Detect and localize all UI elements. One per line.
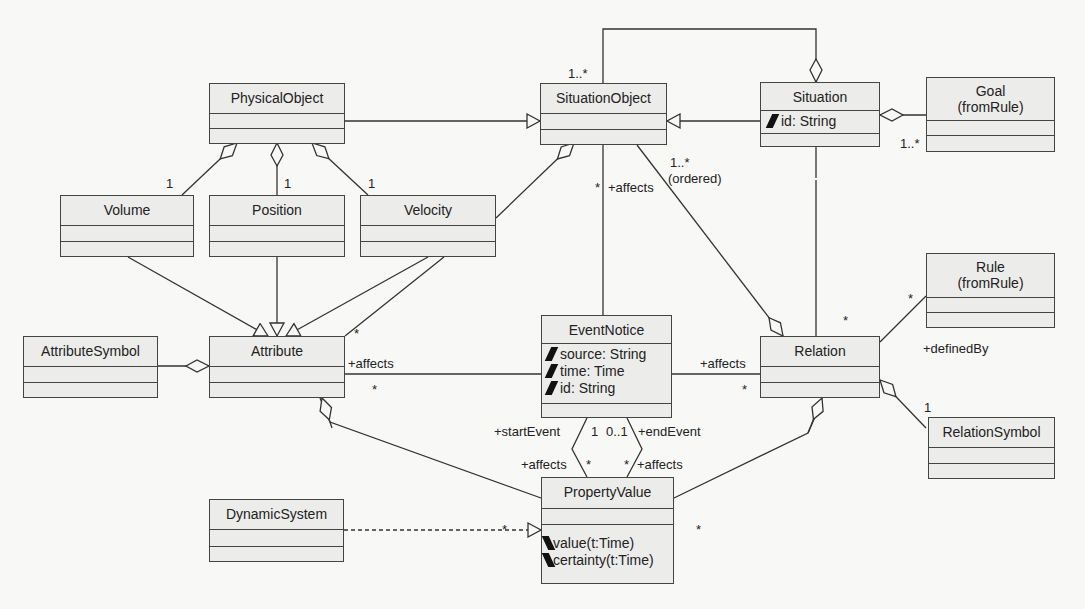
operations-compartment: [761, 134, 879, 149]
role-label: +affects: [700, 357, 746, 371]
operations-compartment: [361, 242, 495, 257]
attributes-compartment: [210, 226, 344, 242]
class-position[interactable]: Position: [209, 195, 345, 257]
edge-propertyvalue-attribute: [320, 398, 541, 498]
class-dynamicsystem[interactable]: DynamicSystem: [209, 499, 344, 562]
operations-compartment: [927, 136, 1054, 152]
multiplicity-label: 1: [368, 177, 375, 191]
multiplicity-label: *: [586, 458, 591, 472]
role-label: +affects: [521, 458, 567, 472]
class-stereotype: (fromRule): [929, 275, 1052, 291]
multiplicity-label: *: [372, 383, 377, 397]
class-physicalobject[interactable]: PhysicalObject: [209, 83, 345, 144]
multiplicity-label: 1: [591, 425, 598, 439]
class-attributesymbol[interactable]: AttributeSymbol: [23, 336, 158, 398]
multiplicity-label: *: [696, 523, 701, 537]
operations-compartment: [24, 383, 157, 398]
class-name: RelationSymbol: [929, 418, 1054, 448]
class-name: Goal (fromRule): [927, 78, 1054, 121]
multiplicity-label: 0..1: [606, 425, 628, 439]
class-name: EventNotice: [542, 316, 671, 344]
class-relationsymbol[interactable]: RelationSymbol: [928, 417, 1055, 479]
multiplicity-label: 1..*: [900, 137, 920, 151]
multiplicity-label: *: [624, 458, 629, 472]
operations-compartment: [210, 242, 344, 257]
multiplicity-label: *: [502, 523, 507, 537]
uml-diagram: PhysicalObject SituationObject Situation…: [0, 0, 1085, 609]
class-name: Situation: [761, 83, 879, 111]
class-name: Rule (fromRule): [927, 254, 1054, 298]
attribute-item: time: Time: [542, 363, 671, 380]
attribute-item: id: String: [763, 113, 877, 130]
operations-compartment: [927, 313, 1054, 328]
attributes-compartment: [210, 114, 344, 129]
class-attribute[interactable]: Attribute: [209, 336, 345, 398]
attributes-compartment: [541, 114, 666, 130]
attributes-compartment: [24, 367, 157, 383]
class-goal[interactable]: Goal (fromRule): [926, 77, 1055, 152]
multiplicity-label: 1: [166, 177, 173, 191]
attributes-compartment: source: String time: Time id: String: [542, 344, 671, 404]
class-stereotype: (fromRule): [929, 99, 1052, 115]
role-label: +affects: [348, 357, 394, 371]
operation-item: certainty(t:Time): [542, 552, 673, 569]
edge-propertyvalue-attribute-diamond: [322, 398, 332, 428]
operations-compartment: [929, 464, 1054, 479]
multiplicity-label: *: [742, 383, 747, 397]
operations-compartment: value(t:Time) certainty(t:Time): [542, 525, 673, 583]
operations-compartment: [61, 242, 193, 257]
class-name: AttributeSymbol: [24, 337, 157, 367]
class-eventnotice[interactable]: EventNotice source: String time: Time id…: [541, 315, 672, 418]
class-name: Position: [210, 196, 344, 226]
multiplicity-label: *: [595, 181, 600, 195]
multiplicity-label: *: [908, 292, 913, 306]
class-name: Volume: [61, 196, 193, 226]
operations-compartment: [541, 130, 666, 145]
attributes-compartment: [542, 509, 673, 525]
attribute-item: id: String: [542, 380, 671, 397]
attributes-compartment: [761, 367, 879, 383]
multiplicity-label: 1: [284, 177, 291, 191]
class-situationobject[interactable]: SituationObject: [540, 83, 667, 145]
attributes-compartment: [210, 530, 343, 547]
attributes-compartment: [927, 121, 1054, 136]
private-visibility-icon: [545, 364, 559, 378]
attributes-compartment: id: String: [761, 111, 879, 134]
class-relation[interactable]: Relation: [760, 336, 880, 398]
edge-rule-relation: [880, 296, 926, 342]
attributes-compartment: [361, 226, 495, 242]
constraint-label: (ordered): [668, 172, 721, 186]
class-name: Velocity: [361, 196, 495, 226]
class-velocity[interactable]: Velocity: [360, 195, 496, 257]
attributes-compartment: [929, 448, 1054, 464]
class-propertyvalue[interactable]: PropertyValue value(t:Time) certainty(t:…: [541, 477, 674, 584]
role-label: +endEvent: [638, 425, 701, 439]
attributes-compartment: [210, 367, 344, 383]
multiplicity-label: 1..*: [670, 156, 690, 170]
class-name: PropertyValue: [542, 478, 673, 509]
attributes-compartment: [927, 298, 1054, 313]
class-situation[interactable]: Situation id: String: [760, 82, 880, 147]
operations-compartment: [761, 383, 879, 398]
edge-situation-situationobject-loop: [603, 29, 816, 83]
edge-velocity-attribute-assoc: [345, 257, 444, 336]
private-visibility-icon: [545, 381, 559, 395]
edge-volume-physicalobject: [182, 143, 237, 195]
role-label: +affects: [608, 181, 654, 195]
attributes-compartment: [61, 226, 193, 242]
operations-compartment: [210, 129, 344, 144]
edge-volume-attribute: [128, 257, 268, 336]
edge-propertyvalue-relation-diamond: [808, 398, 822, 433]
role-label: +definedBy: [923, 342, 988, 356]
role-label: +affects: [637, 458, 683, 472]
class-rule[interactable]: Rule (fromRule): [926, 253, 1055, 328]
edge-velocity-situationobject: [496, 143, 574, 218]
class-name: Attribute: [210, 337, 344, 367]
private-visibility-icon: [545, 347, 559, 361]
multiplicity-label: *: [354, 327, 359, 341]
class-name: PhysicalObject: [210, 84, 344, 114]
multiplicity-label: 1: [924, 401, 931, 415]
class-name: SituationObject: [541, 84, 666, 114]
class-volume[interactable]: Volume: [60, 195, 194, 257]
operations-compartment: [542, 404, 671, 419]
